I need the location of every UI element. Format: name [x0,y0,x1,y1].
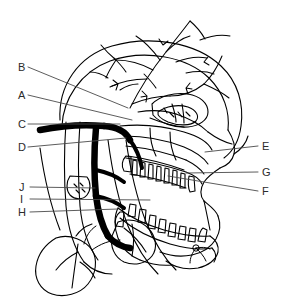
anatomy-illustration [0,0,283,305]
leader-lines [28,67,258,212]
neck-contour [40,140,176,274]
upper-teeth [122,156,202,192]
label-c: C [18,119,26,130]
label-d: D [18,142,26,153]
label-f: F [262,186,269,197]
label-g: G [262,167,271,178]
anatomy-figure: B A C D J I H E G F [0,0,283,305]
mental-vessels [190,245,210,263]
label-j: J [19,182,25,193]
label-i: I [20,194,23,205]
label-h: H [18,207,26,218]
label-a: A [18,90,25,101]
label-b: B [18,62,25,73]
label-e: E [262,141,269,152]
glandular-lobe [36,224,96,296]
